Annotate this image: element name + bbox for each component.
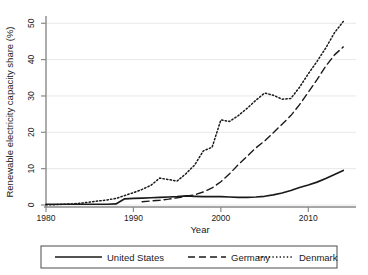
legend: United StatesGermanyDenmark: [41, 246, 338, 268]
y-tick-label: 50: [26, 18, 36, 28]
y-tick-label: 10: [26, 164, 36, 174]
legend-label-united-states: United States: [107, 252, 164, 263]
y-axis-title: Renewable electricity capacity share (%): [4, 26, 15, 197]
x-tick-label: 2010: [299, 213, 318, 223]
series-group: [46, 21, 343, 204]
x-tick-label: 1980: [37, 213, 56, 223]
y-tick-label: 20: [26, 127, 36, 137]
y-tick-label: 0: [26, 202, 36, 207]
x-axis-title: Year: [190, 224, 209, 235]
series-line-united-states: [46, 170, 343, 204]
legend-label-germany: Germany: [231, 252, 270, 263]
y-tick-label: 30: [26, 91, 36, 101]
y-axis-ticks: 01020304050: [26, 18, 46, 207]
y-tick-label: 40: [26, 55, 36, 65]
x-tick-label: 2000: [211, 213, 230, 223]
legend-label-denmark: Denmark: [299, 252, 338, 263]
x-tick-label: 1990: [124, 213, 143, 223]
x-axis-ticks: 1980199020002010: [37, 207, 318, 223]
series-line-denmark: [46, 21, 343, 204]
gridlines: [46, 23, 356, 205]
series-line-germany: [142, 47, 343, 202]
chart-figure: 01020304050 1980199020002010 Renewable e…: [0, 0, 368, 275]
chart-svg: 01020304050 1980199020002010 Renewable e…: [0, 0, 368, 275]
